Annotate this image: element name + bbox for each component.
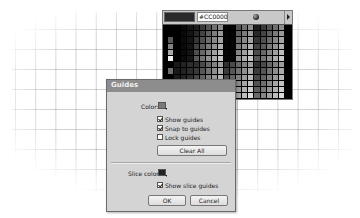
dialog-titlebar[interactable]: Guides xyxy=(107,80,235,92)
color-wheel-icon[interactable] xyxy=(253,14,259,20)
guides-dialog: Guides Color: Show guides Snap to guides… xyxy=(106,79,236,212)
snap-to-guides-label: Snap to guides xyxy=(165,125,210,132)
dialog-title: Guides xyxy=(111,81,138,89)
cancel-button[interactable]: Cancel xyxy=(190,195,228,206)
guide-color-swatch[interactable] xyxy=(158,102,166,109)
color-swatch[interactable] xyxy=(279,93,285,99)
snap-to-guides-checkbox[interactable] xyxy=(157,125,163,131)
lock-guides-checkbox[interactable] xyxy=(157,134,163,140)
palette-header: #CC0000 xyxy=(163,11,292,25)
slice-color-label: Slice color: xyxy=(128,170,161,177)
clear-all-button[interactable]: Clear All xyxy=(157,145,227,156)
ok-button[interactable]: OK xyxy=(148,195,186,206)
show-guides-label: Show guides xyxy=(165,116,203,123)
dialog-separator xyxy=(111,162,231,164)
color-label: Color: xyxy=(141,103,159,110)
slice-color-swatch[interactable] xyxy=(158,169,166,176)
hex-color-field[interactable]: #CC0000 xyxy=(197,12,228,22)
show-guides-checkbox[interactable] xyxy=(157,116,163,122)
color-preview-swatch xyxy=(164,12,195,22)
palette-options-menu-button[interactable] xyxy=(284,11,292,24)
show-slice-guides-checkbox[interactable] xyxy=(157,182,163,188)
lock-guides-label: Lock guides xyxy=(165,134,201,141)
show-slice-guides-label: Show slice guides xyxy=(165,182,218,189)
